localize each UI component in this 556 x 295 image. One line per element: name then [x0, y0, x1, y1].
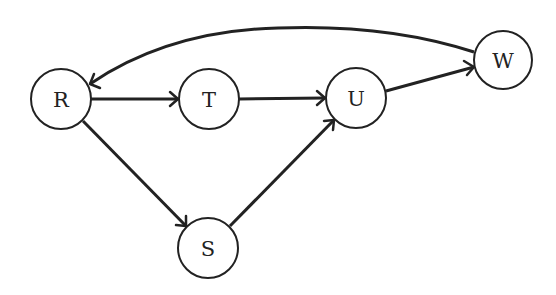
edge-u-to-w — [386, 61, 474, 91]
edges-layer — [83, 27, 474, 226]
node-r[interactable]: R — [31, 69, 91, 129]
node-label-t: T — [202, 88, 216, 112]
edge-r-to-s — [83, 121, 186, 226]
graph-canvas: R T U W S — [0, 0, 556, 295]
edge-w-to-r — [90, 27, 474, 88]
node-w[interactable]: W — [474, 31, 532, 89]
nodes-layer: R T U W S — [31, 31, 532, 278]
node-label-w: W — [492, 49, 514, 73]
node-u[interactable]: U — [326, 68, 386, 128]
node-label-u: U — [347, 87, 365, 111]
edge-t-to-u — [239, 91, 325, 105]
edge-s-to-u — [230, 120, 334, 226]
edge-r-to-t — [91, 92, 178, 106]
node-t[interactable]: T — [179, 69, 239, 129]
node-label-r: R — [53, 88, 70, 112]
node-s[interactable]: S — [178, 218, 238, 278]
node-label-s: S — [201, 237, 215, 261]
